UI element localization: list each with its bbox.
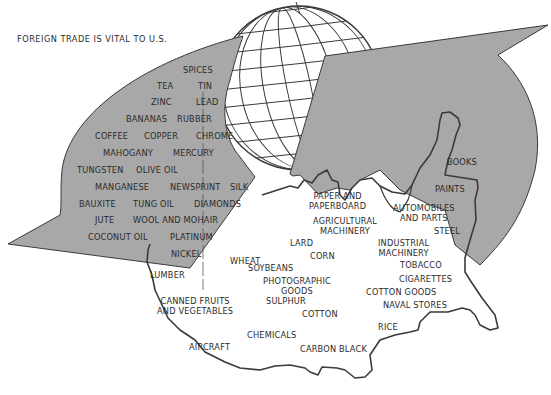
- export-label: AUTOMOBILES AND PARTS: [393, 203, 455, 223]
- import-label: PLATINUM: [170, 232, 213, 242]
- export-label: LUMBER: [150, 270, 185, 280]
- export-label: CHEMICALS: [247, 330, 296, 340]
- import-label: COPPER: [144, 131, 178, 141]
- import-label: RUBBER: [177, 114, 212, 124]
- export-label: PAINTS: [435, 184, 465, 194]
- import-label: TIN: [198, 81, 212, 91]
- export-label: TOBACCO: [400, 260, 442, 270]
- import-label: NICKEL: [171, 249, 202, 259]
- import-label: SILK: [230, 182, 248, 192]
- import-label: DIAMONDS: [194, 199, 241, 209]
- export-label: COTTON GOODS: [366, 287, 436, 297]
- export-label: SULPHUR: [266, 296, 306, 306]
- import-label: NEWSPRINT: [170, 182, 221, 192]
- export-label: PAPER AND PAPERBOARD: [309, 191, 366, 211]
- import-label: COFFEE: [95, 131, 128, 141]
- import-label: MERCURY: [173, 148, 214, 158]
- export-label: INDUSTRIAL MACHINERY: [378, 238, 429, 258]
- import-label: TUNG OIL: [133, 199, 174, 209]
- export-label: LARD: [290, 238, 313, 248]
- page-title: FOREIGN TRADE IS VITAL TO U.S.: [17, 34, 167, 44]
- import-label: WOOL AND MOHAIR: [133, 215, 218, 225]
- import-label: SPICES: [183, 65, 213, 75]
- export-label: RICE: [378, 322, 398, 332]
- export-label: CANNED FRUITS AND VEGETABLES: [157, 296, 233, 316]
- export-label: CARBON BLACK: [300, 344, 367, 354]
- import-label: TUNGSTEN: [77, 165, 124, 175]
- import-label: BAUXITE: [79, 199, 116, 209]
- export-label: AGRICULTURAL MACHINERY: [313, 216, 377, 236]
- export-label: SOYBEANS: [248, 263, 294, 273]
- export-label: CIGARETTES: [399, 274, 452, 284]
- import-label: MANGANESE: [95, 182, 149, 192]
- export-label: CORN: [310, 251, 335, 261]
- trade-diagram: FOREIGN TRADE IS VITAL TO U.S. SPICESTEA…: [0, 0, 551, 395]
- import-label: OLIVE OIL: [136, 165, 178, 175]
- import-label: ZINC: [151, 97, 172, 107]
- import-label: LEAD: [196, 97, 218, 107]
- export-label: PHOTOGRAPHIC GOODS: [263, 276, 331, 296]
- export-label: STEEL: [434, 226, 460, 236]
- import-label: CHROME: [196, 131, 233, 141]
- import-label: TEA: [157, 81, 173, 91]
- export-label: BOOKS: [447, 157, 477, 167]
- import-label: MAHOGANY: [103, 148, 153, 158]
- import-label: JUTE: [95, 215, 114, 225]
- import-label: BANANAS: [126, 114, 167, 124]
- export-label: AIRCRAFT: [189, 342, 230, 352]
- export-label: NAVAL STORES: [383, 300, 447, 310]
- export-label: COTTON: [302, 309, 338, 319]
- import-label: COCONUT OIL: [88, 232, 148, 242]
